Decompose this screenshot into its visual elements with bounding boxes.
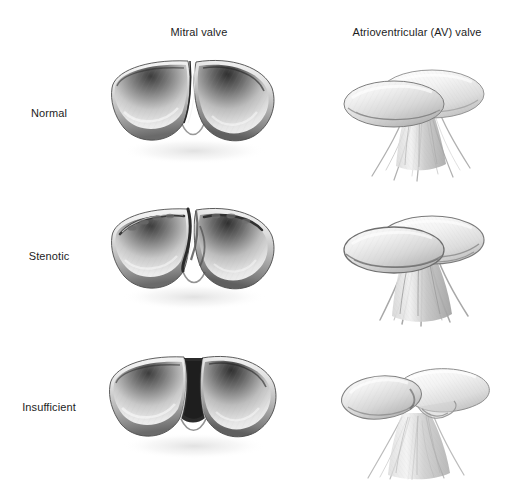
stenotic-mitral-leaflet-right	[194, 208, 274, 288]
row-label-stenotic: Stenotic	[29, 249, 70, 263]
column-header-mitral-valve: Mitral valve	[171, 25, 228, 39]
mitral-leaflet-right	[194, 60, 274, 140]
row-label-insufficient: Insufficient	[22, 400, 76, 414]
valve-pathology-figure: Mitral valve Atrioventricular (AV) valve…	[0, 0, 509, 480]
column-header-av-valve: Atrioventricular (AV) valve	[352, 25, 481, 39]
mitral-leaflet-left	[112, 61, 191, 140]
av-leaflet-anterior	[344, 81, 444, 127]
normal-mitral-valve-illustration	[104, 50, 284, 180]
row-label-normal: Normal	[31, 106, 67, 120]
insufficient-av-valve-illustration	[322, 345, 507, 480]
stenotic-mitral-valve-illustration	[104, 196, 284, 326]
insufficient-mitral-leaflet-left	[109, 357, 186, 436]
stenotic-av-valve-illustration	[322, 196, 507, 331]
normal-av-valve-illustration	[322, 50, 507, 185]
insufficient-mitral-valve-illustration	[104, 345, 284, 475]
stenotic-av-leaflet-anterior	[344, 227, 444, 273]
stenotic-mitral-leaflet-left	[112, 209, 191, 288]
av-leaflet-anterior-flail	[342, 376, 422, 419]
insufficient-mitral-leaflet-right	[199, 356, 276, 436]
